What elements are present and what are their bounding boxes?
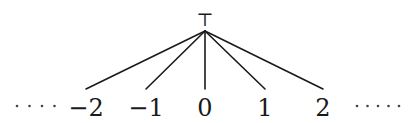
hasse-diagram: ⊤ −2−1012 — [0, 0, 412, 123]
diagram-canvas: ⊤ −2−1012 — [0, 0, 412, 123]
ellipsis-dot — [41, 105, 44, 108]
node-label: 1 — [257, 94, 272, 122]
edges-group — [86, 31, 323, 89]
right-ellipsis — [356, 105, 401, 108]
ellipsis-dot — [387, 105, 390, 108]
ellipsis-dot — [377, 105, 380, 108]
node-label: −2 — [68, 94, 103, 122]
ellipsis-dot — [356, 105, 359, 108]
edge-top-to-n2 — [205, 31, 323, 89]
left-ellipsis — [16, 105, 56, 108]
ellipsis-dot — [366, 105, 369, 108]
edge-top-to-n-1 — [146, 31, 205, 89]
edge-top-to-n-2 — [86, 31, 205, 89]
nodes-group: −2−1012 — [68, 94, 330, 122]
top-element-label: ⊤ — [197, 9, 214, 30]
edge-top-to-n1 — [205, 31, 265, 89]
node-label: 2 — [315, 94, 330, 122]
ellipsis-dot — [16, 105, 19, 108]
ellipsis-dot — [398, 105, 401, 108]
node-label: −1 — [128, 94, 163, 122]
node-label: 0 — [197, 94, 212, 122]
ellipsis-dot — [28, 105, 31, 108]
ellipsis-dot — [53, 105, 56, 108]
